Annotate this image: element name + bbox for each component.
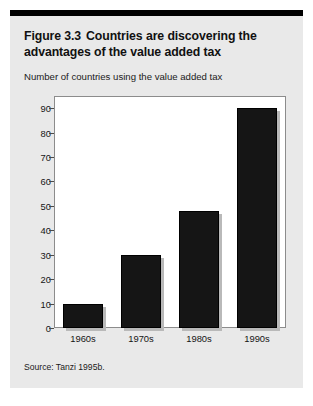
y-axis-tick-mark (49, 304, 54, 305)
bar-1990s (237, 108, 277, 328)
figure-card: Figure 3.3Countries are discovering the … (10, 10, 303, 388)
y-axis-tick-mark (49, 230, 54, 231)
bar-1960s (63, 304, 103, 328)
figure-title: Figure 3.3Countries are discovering the … (24, 28, 286, 60)
x-axis-tick-label: 1980s (170, 333, 228, 344)
y-axis-tick-label: 70 (25, 152, 51, 163)
source-note: Source: Tanzi 1995b. (24, 362, 105, 372)
y-axis-tick-label: 90 (25, 103, 51, 114)
y-axis-tick-mark (49, 328, 54, 329)
chart-plot: 0102030405060708090 1960s1970s1980s1990s (24, 90, 290, 352)
figure-number: Figure 3.3 (24, 29, 81, 43)
bar-1970s (121, 255, 161, 328)
y-axis-tick-mark (49, 157, 54, 158)
x-axis-tick-label: 1990s (228, 333, 286, 344)
y-axis-tick-mark (49, 181, 54, 182)
y-axis-tick-label: 20 (25, 274, 51, 285)
y-axis-tick-label: 80 (25, 127, 51, 138)
top-rule-divider (10, 10, 303, 16)
y-axis-tick-mark (49, 133, 54, 134)
y-axis-tick-mark (49, 206, 54, 207)
y-axis-tick-mark (49, 279, 54, 280)
y-axis-tick-label: 0 (25, 323, 51, 334)
y-axis-tick-label: 40 (25, 225, 51, 236)
x-axis-tick-label: 1960s (54, 333, 112, 344)
y-axis-tick-mark (49, 108, 54, 109)
y-axis-tick-label: 50 (25, 200, 51, 211)
y-axis-tick-label: 10 (25, 298, 51, 309)
chart-subtitle: Number of countries using the value adde… (24, 71, 290, 83)
y-axis-tick-mark (49, 255, 54, 256)
y-axis-tick-label: 30 (25, 249, 51, 260)
x-axis-tick-label: 1970s (112, 333, 170, 344)
bar-1980s (179, 211, 219, 328)
y-axis-tick-label: 60 (25, 176, 51, 187)
